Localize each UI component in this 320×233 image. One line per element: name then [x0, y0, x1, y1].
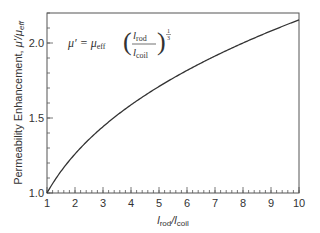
- svg-text:1.0: 1.0: [29, 187, 44, 199]
- svg-text:2: 2: [72, 197, 78, 209]
- svg-text:4: 4: [128, 197, 134, 209]
- y-axis-label: Permeability Enhancement, μ'/μeff: [12, 20, 26, 184]
- svg-text:μ′ = μeff: μ′ = μeff: [67, 36, 106, 51]
- svg-text:6: 6: [184, 197, 190, 209]
- equation-annotation: μ′ = μeff ( lrod lcoil ) 1 3: [67, 27, 171, 60]
- x-axis-label: lrod/lcoil: [157, 214, 189, 228]
- svg-text:5: 5: [156, 197, 162, 209]
- svg-text:(: (: [123, 27, 132, 56]
- tick-labels: 123456789101.01.52.0: [29, 37, 305, 209]
- svg-text:3: 3: [167, 35, 170, 41]
- svg-text:10: 10: [293, 197, 305, 209]
- svg-text:1: 1: [167, 28, 170, 34]
- svg-text:): ): [157, 27, 166, 56]
- svg-text:8: 8: [240, 197, 246, 209]
- svg-text:9: 9: [268, 197, 274, 209]
- permeability-chart: 123456789101.01.52.0 μ′ = μeff ( lrod lc…: [0, 0, 320, 233]
- svg-text:1.5: 1.5: [29, 112, 44, 124]
- svg-text:lcoil: lcoil: [133, 46, 149, 60]
- svg-text:2.0: 2.0: [29, 37, 44, 49]
- svg-text:7: 7: [212, 197, 218, 209]
- svg-text:lrod: lrod: [133, 29, 147, 43]
- svg-text:1: 1: [44, 197, 50, 209]
- svg-text:3: 3: [100, 197, 106, 209]
